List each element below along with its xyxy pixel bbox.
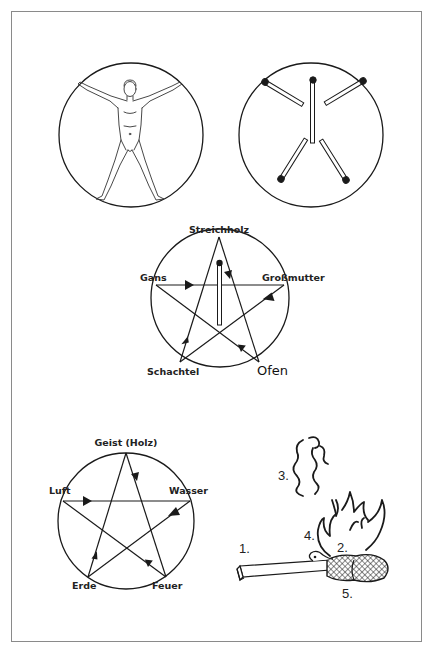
smoke-icon [293, 437, 328, 496]
number-1: 1. [239, 541, 250, 556]
number-5: 5. [342, 586, 353, 601]
number-3: 3. [278, 468, 289, 483]
burning-match-panel: 1. 2. 3. 4. 5. [237, 437, 388, 601]
label-feuer: Feuer [152, 580, 183, 591]
vitruvian-panel [59, 63, 203, 207]
arrow-icon [224, 270, 232, 279]
arrow-icon [83, 496, 92, 506]
label-geist: Geist (Holz) [95, 437, 158, 448]
pentagram-elements-panel: Geist (Holz) Luft Wasser Erde Feuer [49, 437, 208, 591]
pentagram1-match-icon [216, 260, 222, 325]
figure-canvas: Streichholz Gans Großmutter Schachtel Of… [0, 0, 431, 650]
match-head-icon [327, 555, 388, 582]
label-gans: Gans [140, 272, 167, 283]
label-streichholz: Streichholz [189, 224, 250, 235]
vitruvian-man-icon [78, 80, 182, 200]
label-grossmutter: Großmutter [262, 272, 325, 283]
match-stick-icon [237, 560, 330, 580]
arrow-icon [168, 507, 180, 516]
pentagram2-circle [58, 453, 194, 589]
matches-group [261, 77, 368, 185]
label-luft: Luft [49, 485, 71, 496]
match-lower-right-icon [318, 138, 350, 184]
number-2: 2. [337, 540, 348, 555]
label-erde: Erde [72, 580, 96, 591]
label-ofen: Ofen [257, 363, 288, 378]
flame-icon [318, 492, 385, 556]
label-schachtel: Schachtel [147, 366, 199, 377]
match-lower-left-icon [277, 137, 309, 183]
five-matches-panel [239, 63, 383, 207]
number-4: 4. [304, 528, 315, 543]
match-upper-right-icon [324, 77, 368, 107]
match-center-icon [310, 77, 316, 143]
arrow-icon [185, 280, 194, 290]
pentagram-fairytale-panel: Streichholz Gans Großmutter Schachtel Of… [140, 224, 325, 378]
label-wasser: Wasser [169, 485, 208, 496]
match-upper-left-icon [261, 78, 305, 108]
